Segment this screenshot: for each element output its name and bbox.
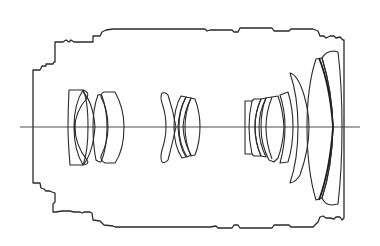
lens-element xyxy=(266,97,272,159)
lens-cross-section-drawing xyxy=(0,0,380,246)
lens-element xyxy=(261,96,284,162)
lens-cemented-surface xyxy=(319,58,333,200)
lens-element xyxy=(280,92,293,163)
lens-group-2 xyxy=(161,93,200,163)
lens-group-1 xyxy=(68,90,124,165)
lens-element xyxy=(307,58,333,200)
lens-group-4 xyxy=(290,51,342,205)
lens-diagram: Zoom lens optical construction xyxy=(0,0,380,246)
lens-element xyxy=(249,101,252,154)
lens-group-3 xyxy=(245,92,293,163)
barrel-outline xyxy=(33,28,344,228)
